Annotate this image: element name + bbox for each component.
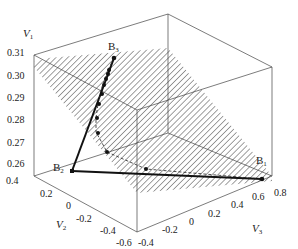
- z-axis-label: V1: [23, 27, 34, 41]
- svg-text:0: 0: [189, 216, 194, 227]
- x-axis-ticks: -0.4 -0.2 0 0.2 0.4 0.6 0.8: [138, 187, 287, 248]
- svg-text:0.8: 0.8: [274, 187, 287, 198]
- svg-text:0.4: 0.4: [231, 199, 244, 210]
- label-b3: B3: [108, 40, 119, 54]
- svg-text:-0.2: -0.2: [162, 224, 178, 235]
- svg-text:0.27: 0.27: [7, 137, 25, 148]
- svg-text:0: 0: [66, 200, 71, 211]
- svg-text:-0.2: -0.2: [76, 213, 92, 224]
- svg-text:0.6: 0.6: [252, 191, 265, 202]
- svg-text:0.29: 0.29: [7, 92, 25, 103]
- svg-text:0.31: 0.31: [7, 47, 25, 58]
- chart-3d: B3 B2 B1 V1 0.31 0.30 0.29 0.28 0.27 0.2…: [0, 0, 298, 249]
- label-b1: B1: [256, 154, 267, 168]
- y-axis-label: V2: [56, 218, 67, 232]
- y-axis-ticks: 0.4 0.2 0 -0.2 -0.4 -0.6: [6, 175, 132, 248]
- svg-text:0.28: 0.28: [7, 114, 25, 125]
- x-axis-label: V3: [252, 222, 263, 236]
- hatched-plane: [34, 48, 272, 193]
- z-axis-ticks: 0.31 0.30 0.29 0.28 0.27 0.26: [7, 47, 25, 169]
- svg-text:0.4: 0.4: [6, 175, 19, 186]
- svg-text:-0.4: -0.4: [100, 225, 116, 236]
- label-b2: B2: [53, 161, 64, 175]
- svg-text:-0.6: -0.6: [116, 237, 132, 248]
- svg-text:0.2: 0.2: [40, 188, 53, 199]
- svg-text:0.2: 0.2: [208, 208, 221, 219]
- svg-text:-0.4: -0.4: [138, 237, 154, 248]
- svg-text:0.30: 0.30: [7, 70, 25, 81]
- svg-text:0.26: 0.26: [7, 158, 25, 169]
